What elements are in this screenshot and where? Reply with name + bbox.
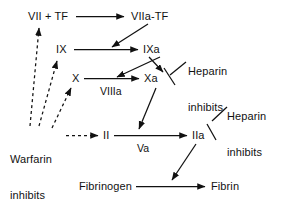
annotation-heparin-inhibits-iia-line1: Heparin bbox=[227, 110, 266, 122]
arrow-warfarin-to-ix bbox=[39, 61, 57, 126]
connector-heparin-xa bbox=[170, 62, 186, 75]
arrow-iia-to-fibrin-reaction bbox=[172, 144, 196, 180]
node-viia-tf: VIIa-TF bbox=[131, 11, 168, 23]
edge-label-viiia: VIIIa bbox=[100, 86, 122, 97]
node-xa: Xa bbox=[144, 73, 158, 85]
annotation-heparin-inhibits-xa-line1: Heparin bbox=[188, 65, 227, 77]
annotation-heparin-inhibits-xa-line2: inhibits bbox=[188, 101, 227, 113]
arrow-warfarin-to-x bbox=[52, 88, 71, 128]
node-ixa: IXa bbox=[143, 44, 160, 56]
inhibition-bar-xa bbox=[164, 68, 175, 85]
annotation-heparin-inhibits-xa: Heparin inhibits bbox=[188, 41, 227, 137]
node-ii: II bbox=[103, 130, 109, 142]
node-fibrinogen: Fibrinogen bbox=[79, 181, 132, 193]
edge-label-va: Va bbox=[137, 143, 149, 154]
annotation-warfarin-inhibits-synthesis: Warfarin inhibits synthesis bbox=[10, 129, 57, 204]
annotation-heparin-inhibits-iia-line2: inhibits bbox=[227, 146, 266, 158]
node-fibrin: Fibrin bbox=[211, 181, 239, 193]
node-vii-tf: VII + TF bbox=[28, 11, 68, 23]
annotation-warfarin-line1: Warfarin bbox=[10, 153, 57, 165]
annotation-warfarin-line2: inhibits bbox=[10, 189, 57, 201]
arrow-xa-to-prothrombinase bbox=[139, 88, 156, 129]
coagulation-cascade-diagram: VII + TF VIIa-TF IX IXa X Xa II IIa Fibr… bbox=[0, 0, 282, 204]
node-x: X bbox=[72, 73, 79, 85]
node-ix: IX bbox=[56, 44, 67, 56]
annotation-heparin-inhibits-iia: Heparin inhibits bbox=[227, 86, 266, 182]
arrow-warfarin-to-vii bbox=[30, 28, 39, 126]
